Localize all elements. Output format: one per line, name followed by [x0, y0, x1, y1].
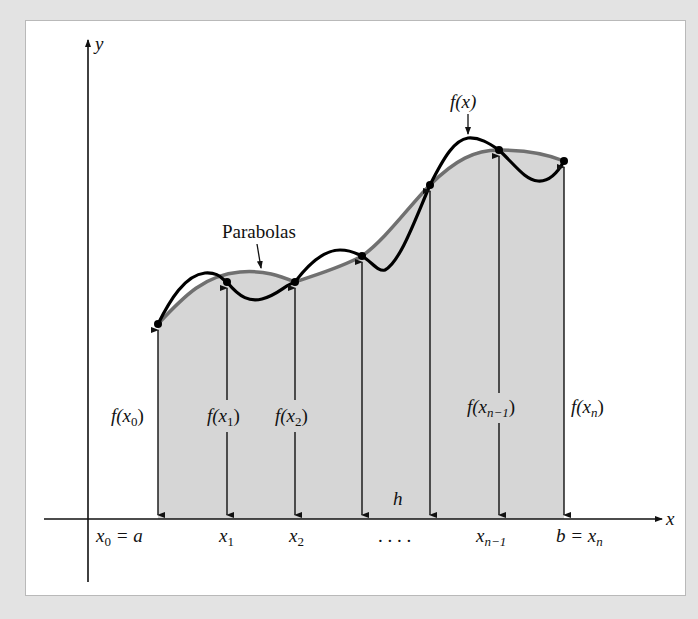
y-axis-label: y: [93, 33, 104, 54]
label-f-xn: f(xn): [571, 396, 604, 420]
label-f-x1: f(x1): [207, 405, 240, 429]
parabolas-label: Parabolas: [222, 221, 296, 242]
shaded-area: [158, 150, 564, 519]
point-x3: [358, 252, 366, 260]
x-axis-label: x: [665, 508, 675, 529]
fx-label: f(x): [450, 91, 476, 113]
tick-label-x2: x2: [288, 525, 304, 549]
point-x0: [154, 320, 162, 328]
ellipsis-label: . . . .: [378, 525, 411, 546]
tick-label-x1: x1: [218, 525, 234, 549]
step-h-label: h: [393, 488, 403, 509]
point-xn-1: [495, 146, 503, 154]
point-x1: [223, 278, 231, 286]
tick-label-x0-a: x0 = a: [95, 525, 143, 549]
point-x4: [426, 181, 434, 189]
parabolas-arrow: [257, 244, 261, 268]
tick-label-xn-1: xn−1: [475, 525, 506, 549]
tick-label-b-xn: b = xn: [556, 525, 603, 549]
point-xn: [560, 157, 568, 165]
label-f-x2: f(x2): [275, 405, 308, 429]
simpson-rule-diagram: x y Parabolas f(x) f(x0) f(x1) f(x2) f(x…: [0, 0, 698, 619]
point-x2: [291, 278, 299, 286]
label-f-x0: f(x0): [111, 405, 144, 429]
